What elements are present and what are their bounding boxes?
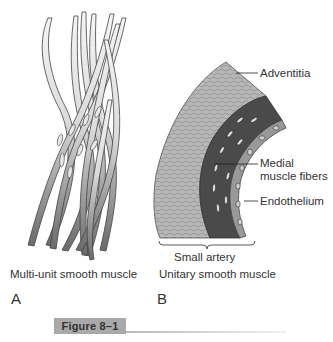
small-artery-bracket xyxy=(159,241,255,249)
panel-a-letter: A xyxy=(11,290,21,307)
figure-rule xyxy=(126,331,286,333)
panel-b-artery xyxy=(154,62,286,249)
panel-b-letter: B xyxy=(157,290,167,307)
figure-label-bar: Figure 8–1 xyxy=(54,318,284,334)
figure-number: Figure 8–1 xyxy=(54,318,126,334)
medial-label-line2: muscle fibers xyxy=(260,170,328,183)
adventitia-label: Adventitia xyxy=(260,67,311,80)
panel-b-caption: Unitary smooth muscle xyxy=(159,268,276,281)
panel-a-muscle-fibers xyxy=(28,12,126,260)
panel-a-caption: Multi-unit smooth muscle xyxy=(10,268,137,281)
small-artery-label: Small artery xyxy=(174,251,235,264)
endothelium-label: Endothelium xyxy=(260,195,324,208)
medial-label-line1: Medial xyxy=(260,157,294,170)
